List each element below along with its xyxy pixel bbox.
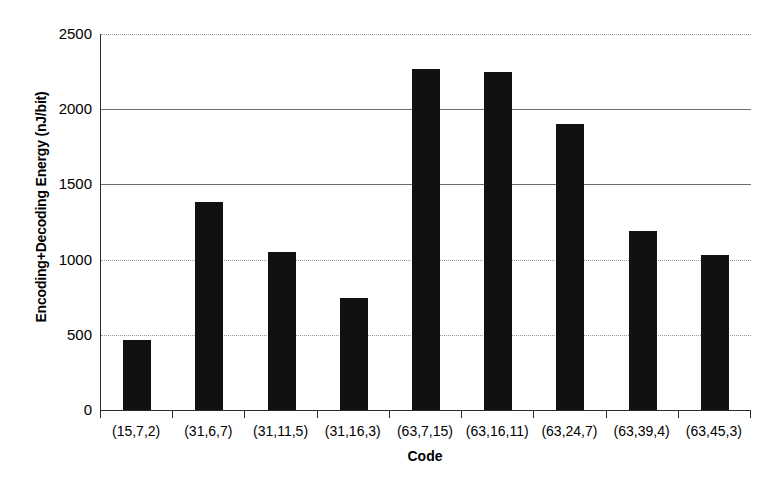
bar-slot (390, 34, 462, 410)
y-tick-label: 0 (46, 402, 92, 417)
x-tick (317, 411, 318, 418)
y-tick-label: 500 (46, 327, 92, 342)
x-tick (533, 411, 534, 418)
bar[interactable] (123, 340, 151, 410)
x-tick (606, 411, 607, 418)
x-tick-label: (31,11,5) (244, 420, 316, 442)
x-tick (678, 411, 679, 418)
y-tick-label: 1500 (46, 176, 92, 191)
bar[interactable] (195, 202, 223, 410)
bar[interactable] (701, 255, 729, 410)
bar[interactable] (629, 231, 657, 410)
x-axis-tick-labels: (15,7,2)(31,6,7)(31,11,5)(31,16,3)(63,7,… (100, 420, 750, 442)
x-tick (389, 411, 390, 418)
bar[interactable] (340, 298, 368, 410)
x-axis-title: Code (100, 448, 750, 464)
bar-slot (173, 34, 245, 410)
y-axis-tick-labels: 05001000150020002500 (38, 0, 92, 489)
bar-slot (462, 34, 534, 410)
x-tick-label: (63,16,11) (461, 420, 533, 442)
bar[interactable] (556, 124, 584, 410)
bar-slot (318, 34, 390, 410)
x-tick (750, 411, 751, 418)
x-tick (100, 411, 101, 418)
x-tick-label: (63,7,15) (389, 420, 461, 442)
x-tick-label: (63,24,7) (533, 420, 605, 442)
bar-chart-figure: Encoding+Decoding Energy (nJ/bit) 050010… (0, 0, 781, 489)
x-tick-label: (31,6,7) (172, 420, 244, 442)
x-axis-ticks (100, 411, 751, 418)
x-tick-label: (31,16,3) (317, 420, 389, 442)
plot-area (100, 34, 751, 411)
bar[interactable] (268, 252, 296, 410)
bar-slot (534, 34, 606, 410)
y-tick-label: 2000 (46, 101, 92, 116)
bar-slot (245, 34, 317, 410)
bar-slot (101, 34, 173, 410)
bar-slot (679, 34, 751, 410)
bar-slot (607, 34, 679, 410)
x-tick-label: (63,45,3) (678, 420, 750, 442)
x-tick (172, 411, 173, 418)
bar-series (101, 34, 751, 410)
x-tick-label: (15,7,2) (100, 420, 172, 442)
x-tick (461, 411, 462, 418)
bar[interactable] (412, 69, 440, 410)
x-tick-label: (63,39,4) (606, 420, 678, 442)
y-tick-label: 2500 (46, 26, 92, 41)
bar[interactable] (484, 72, 512, 410)
y-tick-label: 1000 (46, 252, 92, 267)
x-tick (244, 411, 245, 418)
